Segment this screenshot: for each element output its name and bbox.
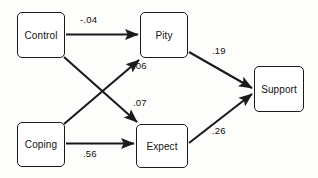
node-pity-label: Pity — [155, 30, 172, 41]
node-support-label: Support — [261, 84, 297, 95]
node-coping-label: Coping — [25, 139, 57, 150]
edge-label-pity-support: .19 — [212, 45, 226, 56]
edge-label-expect-support: .26 — [212, 125, 226, 136]
node-control: Control — [17, 12, 65, 58]
edge-label-coping-expect: .56 — [83, 148, 97, 159]
node-expect: Expect — [136, 124, 188, 168]
arrow-pity-to-support — [189, 52, 252, 88]
edge-label-control-pity: -.04 — [80, 14, 97, 25]
edge-label-coping-pity: .06 — [133, 60, 147, 71]
node-support: Support — [254, 66, 304, 112]
node-coping: Coping — [17, 122, 65, 167]
node-pity: Pity — [140, 12, 188, 58]
path-diagram: Control Pity Support Coping Expect -.04 … — [0, 0, 318, 178]
arrow-control-to-expect — [64, 57, 137, 122]
node-control-label: Control — [25, 30, 58, 41]
edge-label-control-expect: .07 — [133, 97, 147, 108]
node-expect-label: Expect — [146, 141, 177, 152]
